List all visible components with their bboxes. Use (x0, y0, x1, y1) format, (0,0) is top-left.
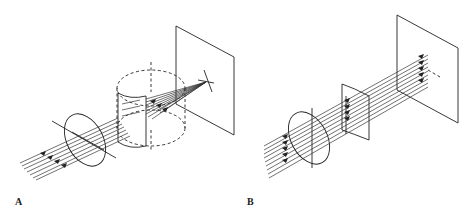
panel-a (0, 0, 235, 214)
parallel-rays-b (264, 55, 428, 178)
panel-b-label: B (247, 196, 254, 207)
cylindrical-lens-a (118, 93, 146, 147)
diagram-b (234, 0, 469, 214)
incoming-rays-a (20, 118, 130, 180)
screen-b (397, 15, 458, 123)
panel-b (234, 0, 469, 214)
diagram-a (0, 0, 235, 214)
aperture-b (280, 105, 338, 171)
screen-a (176, 26, 234, 135)
panel-a-label: A (15, 196, 22, 207)
